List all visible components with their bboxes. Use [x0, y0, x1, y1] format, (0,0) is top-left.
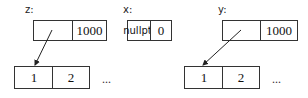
y-pointer-arrow	[203, 30, 241, 65]
pointer-arrows	[0, 0, 308, 98]
z-pointer-arrow	[35, 30, 52, 65]
